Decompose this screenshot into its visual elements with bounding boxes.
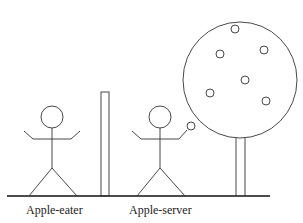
apple-icon <box>216 50 224 58</box>
apple-eater-figure <box>24 106 80 196</box>
diagram-canvas <box>0 0 303 223</box>
head <box>149 106 171 128</box>
apple-server-figure <box>132 106 195 196</box>
apple-icon <box>206 89 214 97</box>
apple-icon <box>262 97 270 105</box>
apple-icon <box>231 25 239 33</box>
apple-tree <box>183 22 297 196</box>
apple-server-label: Apple-server <box>129 203 192 218</box>
head <box>41 106 63 128</box>
apple-eater-label: Apple-eater <box>26 203 83 218</box>
tree-crown <box>183 22 297 138</box>
post-barrier <box>101 92 109 196</box>
apple-icon <box>260 46 268 54</box>
apple-icon <box>241 76 249 84</box>
held-apple-icon <box>187 122 195 130</box>
